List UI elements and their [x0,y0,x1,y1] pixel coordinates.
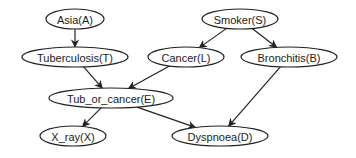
node-tub-or-cancer[interactable]: Tub_or_cancer(E) [49,88,173,108]
edge-e-to-x [83,108,102,127]
node-label: X_ray(X) [51,131,94,143]
node-asia[interactable]: Asia(A) [46,9,104,29]
node-label: Dyspnoea(D) [188,131,253,143]
node-smoker[interactable]: Smoker(S) [202,9,278,29]
edge-s-to-l [199,28,226,47]
node-label: Bronchitis(B) [258,52,321,64]
nodes-layer: Asia(A) Smoker(S) Tuberculosis(T) Cancer… [22,9,337,146]
node-label: Cancer(L) [162,52,211,64]
edge-t-to-e [84,67,103,88]
edge-l-to-e [129,66,170,88]
edge-s-to-b [252,28,276,47]
diagram-svg: Asia(A) Smoker(S) Tuberculosis(T) Cancer… [0,0,356,158]
node-dyspnoea[interactable]: Dyspnoea(D) [172,126,268,146]
node-bronchitis[interactable]: Bronchitis(B) [241,47,337,67]
node-cancer[interactable]: Cancer(L) [148,47,224,67]
node-label: Tuberculosis(T) [37,52,113,64]
node-label: Tub_or_cancer(E) [67,93,155,105]
edge-e-to-d [137,107,195,127]
node-label: Asia(A) [57,14,93,26]
node-tuberculosis[interactable]: Tuberculosis(T) [22,47,128,67]
edge-b-to-d [229,67,281,126]
edges-layer [75,28,280,127]
node-label: Smoker(S) [214,14,267,26]
node-x-ray[interactable]: X_ray(X) [40,126,106,146]
bayesian-network-diagram: Asia(A) Smoker(S) Tuberculosis(T) Cancer… [0,0,356,158]
